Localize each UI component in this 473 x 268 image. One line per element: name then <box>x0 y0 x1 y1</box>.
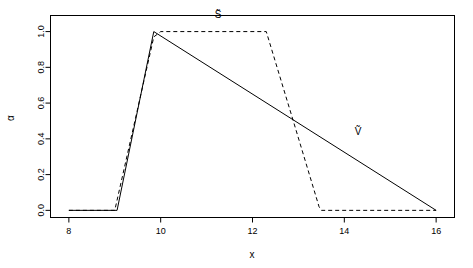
series-dashed <box>69 32 436 211</box>
x-axis-title: x <box>250 249 255 260</box>
y-axis-title: α <box>5 115 16 121</box>
y-axis-tick-labels: 0.00.20.40.60.81.0 <box>37 25 47 216</box>
x-axis-ticks <box>69 218 436 223</box>
y-tick-label: 0.8 <box>37 61 47 74</box>
y-tick-label: 0.4 <box>37 133 47 146</box>
y-axis-ticks <box>46 32 51 211</box>
y-tick-label: 1.0 <box>37 25 47 38</box>
y-tick-label: 0.6 <box>37 97 47 110</box>
x-tick-label: 8 <box>66 226 71 236</box>
x-axis-tick-labels: 810121416 <box>66 226 441 236</box>
x-tick-label: 14 <box>339 226 349 236</box>
chart-container: 810121416 0.00.20.40.60.81.0 S̃Ṽ x α <box>0 0 473 268</box>
series-paths <box>69 32 436 211</box>
x-tick-label: 12 <box>247 226 257 236</box>
series-annotations: S̃Ṽ <box>215 9 362 138</box>
plot-frame <box>51 16 455 218</box>
series-solid <box>69 32 436 211</box>
y-tick-label: 0.2 <box>37 168 47 181</box>
alpha-vs-x-line-chart: 810121416 0.00.20.40.60.81.0 S̃Ṽ x α <box>0 0 473 268</box>
series-label: S̃ <box>215 9 222 21</box>
x-tick-label: 16 <box>431 226 441 236</box>
y-tick-label: 0.0 <box>37 204 47 217</box>
x-tick-label: 10 <box>156 226 166 236</box>
series-label: Ṽ <box>355 125 362 137</box>
